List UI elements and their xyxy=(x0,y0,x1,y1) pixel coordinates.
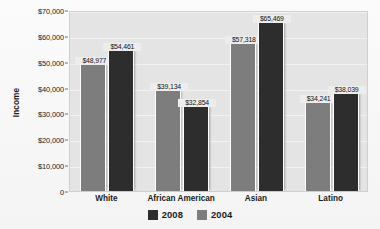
bars-layer: $48,977$54,461$39,134$32,854$57,318$65,4… xyxy=(70,12,367,191)
y-axis-tick-label: $30,000 xyxy=(38,110,64,119)
y-axis-tick-mark xyxy=(65,140,68,141)
bar-2004-white xyxy=(80,64,106,191)
y-axis-tick-mark xyxy=(65,114,68,115)
y-axis-tick-label: $60,000 xyxy=(38,32,64,41)
y-axis-tick-label: $40,000 xyxy=(38,84,64,93)
x-axis-label-asian: Asian xyxy=(245,194,267,203)
bar-value-label: $32,854 xyxy=(178,99,216,107)
x-axis-label-latino: Latino xyxy=(318,194,343,203)
bar-value-label: $39,134 xyxy=(150,83,188,91)
legend-item-2004[interactable]: 2004 xyxy=(197,209,232,220)
y-axis-tick-mark xyxy=(65,62,68,63)
legend-swatch-2008 xyxy=(148,210,158,220)
legend-swatch-2004 xyxy=(197,210,207,220)
y-axis-tick-mark xyxy=(65,36,68,37)
y-axis-tick-mark xyxy=(65,166,68,167)
bar-2008-latino xyxy=(333,93,359,191)
bar-value-label: $54,461 xyxy=(103,43,141,51)
plot-area: $48,977$54,461$39,134$32,854$57,318$65,4… xyxy=(69,11,368,192)
bar-value-label: $65,469 xyxy=(253,15,291,23)
y-axis-tick-mark xyxy=(65,88,68,89)
y-axis-tick-label: $20,000 xyxy=(38,136,64,145)
bar-value-label: $38,039 xyxy=(328,86,366,94)
bar-2004-latino xyxy=(305,102,331,191)
legend-label-2004: 2004 xyxy=(211,209,232,220)
x-axis-label-african-american: African American xyxy=(147,194,215,203)
y-axis-tick-labels: $70,000$60,000$50,000$40,000$30,000$20,0… xyxy=(18,10,68,192)
y-axis-tick-mark xyxy=(65,11,68,12)
bar-2008-asian xyxy=(258,22,284,191)
bar-2004-asian xyxy=(230,43,256,191)
legend-label-2008: 2008 xyxy=(162,209,183,220)
y-axis-tick-label: $50,000 xyxy=(38,58,64,67)
x-axis-label-white: White xyxy=(95,194,117,203)
x-axis-category-labels: WhiteAfrican AmericanAsianLatino xyxy=(69,194,368,210)
y-axis-tick-label: 0 xyxy=(60,188,64,197)
bar-2008-african-american xyxy=(183,106,209,191)
chart-legend: 20082004 xyxy=(0,209,380,220)
y-axis-tick-mark xyxy=(65,192,68,193)
y-axis-tick-label: $10,000 xyxy=(38,162,64,171)
income-bar-chart: Income $70,000$60,000$50,000$40,000$30,0… xyxy=(0,0,380,229)
legend-item-2008[interactable]: 2008 xyxy=(148,209,183,220)
bar-2008-white xyxy=(108,50,134,191)
y-axis-tick-label: $70,000 xyxy=(38,7,64,16)
